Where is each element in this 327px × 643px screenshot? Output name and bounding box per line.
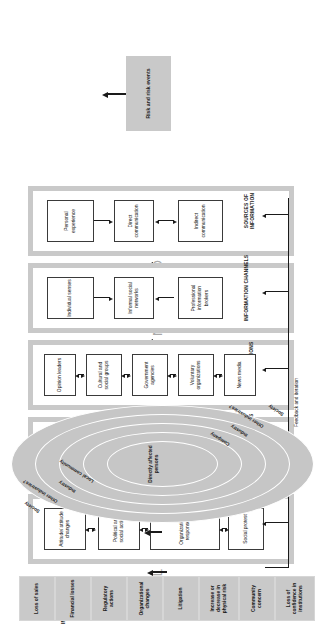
arrowhead-icon — [173, 220, 177, 224]
arrowhead-icon — [127, 374, 131, 378]
arrowhead-icon — [173, 374, 177, 378]
node-label: Indirect communication — [179, 201, 222, 241]
arrow-senses-to-informal — [94, 297, 110, 298]
feedback-bus-riser — [265, 368, 289, 369]
arrow-direct-to-indirect — [158, 220, 174, 221]
impact-label: Increase or decrease in physical risk — [200, 577, 238, 620]
node-personal-experience: Personal experience — [47, 200, 94, 242]
impact-label: Organizational changes — [128, 577, 162, 620]
arrowhead-icon — [262, 368, 266, 372]
node-professional-information-brokers: Professional information brokers — [178, 277, 223, 319]
band-label-information-channels: INFORMATION CHANNELS — [244, 253, 250, 323]
impact-increase-or-decrease-in-physical-risk: Increase or decrease in physical risk — [199, 576, 239, 621]
ripple-effects-ellipses — [11, 405, 314, 523]
feedback-bus-riser — [265, 291, 289, 292]
arrow-channels-to-social — [153, 340, 167, 342]
arrowhead-icon — [219, 528, 223, 532]
node-label: Opinion leaders — [45, 355, 75, 395]
node-label: Government agencies — [133, 355, 167, 395]
arrowhead-icon — [167, 374, 171, 378]
arrow-risk-to-sources — [108, 93, 126, 95]
arrowhead-icon — [262, 291, 266, 295]
arrowhead-icon — [81, 374, 85, 378]
risk-and-risk-events-box: Risk and risk events — [126, 56, 171, 131]
arrowhead-icon — [219, 374, 223, 378]
node-label: Cultural and social groups — [87, 355, 121, 395]
arrowhead-icon — [155, 220, 159, 224]
arrowhead-icon — [262, 214, 266, 218]
node-direct-communication: Direct communication — [114, 200, 154, 242]
ripple-label-directly-affected-persons: Directly affected persons — [148, 445, 160, 483]
node-voluntary-organizations: Voluntary organizations — [178, 354, 214, 396]
arrow-personal-to-direct — [94, 220, 110, 221]
impact-community-concern: Community concern — [239, 576, 275, 621]
impact-label: Financial losses — [56, 577, 90, 620]
impact-label: Loss of sales — [20, 577, 54, 620]
ripple-ring-local-community — [107, 441, 218, 487]
impact-regulatory-actions: Regulatory actions — [91, 576, 127, 621]
impact-label: Community concern — [240, 577, 274, 620]
impact-label: Regulatory actions — [92, 577, 126, 620]
node-cultural-and-social-groups: Cultural and social groups — [86, 354, 122, 396]
arrowhead-icon — [155, 297, 159, 301]
node-label: Personal experience — [48, 201, 93, 241]
risk-and-risk-events-label: Risk and risk events — [126, 56, 171, 131]
impact-loss-of-confidence-in-institutions: Loss of confidence in institutions — [275, 576, 315, 621]
arrowhead-icon — [85, 528, 89, 532]
arrowhead-icon — [139, 528, 143, 532]
node-informal-social-networks: Informal social networks — [114, 277, 154, 319]
arrow-brokers-to-informal — [158, 297, 174, 298]
arrowhead-icon — [213, 374, 217, 378]
arrow-institutional-to-ripple — [153, 571, 167, 573]
feedback-bus-riser — [265, 567, 289, 568]
node-indirect-communication: Indirect communication — [178, 200, 223, 242]
node-news-media: News media — [224, 354, 256, 396]
node-label: News media — [225, 355, 255, 395]
feedback-bus-riser — [265, 214, 289, 215]
node-label: Direct communication — [115, 201, 153, 241]
arrowhead-icon — [121, 374, 125, 378]
band-label-sources-of-information: SOURCES OF INFORMATION — [244, 176, 256, 246]
impact-litigation: Litigation — [163, 576, 199, 621]
impact-loss-of-sales: Loss of sales — [19, 576, 55, 621]
impact-financial-losses: Financial losses — [55, 576, 91, 621]
node-label: Informal social networks — [115, 278, 153, 318]
node-government-agencies: Government agencies — [132, 354, 168, 396]
diagram-canvas: AMPLIFICATION AND ATTENUATION IMPACTS RI… — [0, 0, 327, 643]
arrow-sources-to-channels — [153, 263, 167, 265]
impact-label: Loss of confidence in institutions — [276, 577, 314, 620]
node-label: Voluntary organizations — [179, 355, 213, 395]
arrowhead-icon — [109, 220, 113, 224]
node-label: Individual senses — [48, 278, 93, 318]
node-opinion-leaders: Opinion leaders — [44, 354, 76, 396]
arrowhead-icon — [75, 374, 79, 378]
arrowhead-icon — [225, 528, 229, 532]
arrow-ripple-to-impacts — [150, 531, 162, 533]
node-label: Professional information brokers — [179, 278, 222, 318]
node-individual-senses: Individual senses — [47, 277, 94, 319]
impact-label: Litigation — [164, 577, 198, 620]
arrowhead-icon — [109, 297, 113, 301]
arrowhead-icon — [92, 528, 96, 532]
impact-organizational-changes: Organizational changes — [127, 576, 163, 621]
